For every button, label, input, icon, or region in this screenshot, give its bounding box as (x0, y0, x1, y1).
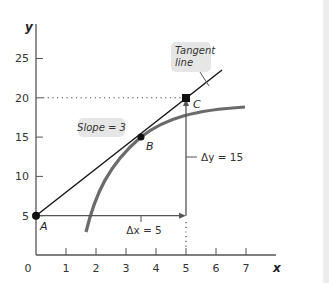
y-tick-label: 15 (15, 131, 29, 144)
delta-y-label: Δy = 15 (201, 151, 243, 163)
chart: 5 10 15 20 25 0 1 2 3 4 5 6 7 y x Δx = 5… (0, 0, 329, 283)
x-tick-label: 7 (243, 262, 250, 275)
tangent-callout-line1: Tangent (175, 45, 216, 56)
x-tick-label: 4 (153, 262, 160, 275)
x-tick-label: 6 (213, 262, 220, 275)
delta-x-arrowhead (179, 213, 186, 219)
tangent-line (36, 70, 222, 216)
point-c-marker (182, 94, 190, 102)
tangent-callout-line2: line (175, 57, 193, 68)
point-a-marker (32, 212, 40, 220)
x-ticks (66, 248, 246, 255)
point-b-marker (138, 134, 145, 141)
point-b-label: B (146, 140, 154, 153)
origin-label: 0 (25, 262, 32, 275)
point-c-label: C (193, 98, 201, 111)
y-tick-label: 10 (15, 170, 29, 183)
y-tick-label: 20 (15, 92, 29, 105)
slope-label: Slope = 3 (77, 122, 126, 133)
delta-x-label: Δx = 5 (126, 224, 162, 236)
x-tick-label: 2 (93, 262, 100, 275)
y-axis-title: y (25, 20, 34, 34)
y-ticks (36, 59, 43, 216)
point-a-label: A (39, 220, 48, 233)
x-tick-label: 3 (123, 262, 130, 275)
x-axis-title: x (272, 261, 282, 275)
y-tick-label: 25 (15, 52, 29, 65)
y-tick-label: 5 (22, 210, 29, 223)
x-tick-label: 5 (183, 262, 190, 275)
x-tick-label: 1 (63, 262, 70, 275)
